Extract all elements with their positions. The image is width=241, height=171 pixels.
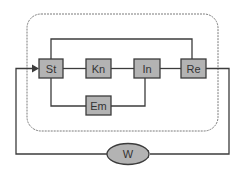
- edge-st-re-top: [51, 39, 192, 59]
- node-re-label: Re: [186, 63, 200, 75]
- arrowhead-into-st-icon: [32, 65, 39, 73]
- node-em: Em: [86, 96, 111, 115]
- edge-re-w: [150, 69, 229, 155]
- node-in: In: [134, 59, 160, 78]
- connectors: [16, 39, 229, 154]
- node-st-label: St: [46, 63, 56, 75]
- edge-em-in: [111, 78, 145, 106]
- node-kn: Kn: [86, 59, 111, 78]
- node-st: St: [39, 59, 63, 78]
- node-em-label: Em: [90, 100, 107, 112]
- node-w-label: W: [123, 148, 134, 160]
- node-kn-label: Kn: [92, 63, 105, 75]
- feedback-loop-diagram: St Kn In Re Em W: [0, 0, 241, 171]
- edge-st-em: [51, 78, 86, 106]
- node-in-label: In: [142, 63, 151, 75]
- node-w: W: [107, 144, 149, 165]
- node-re: Re: [181, 59, 206, 78]
